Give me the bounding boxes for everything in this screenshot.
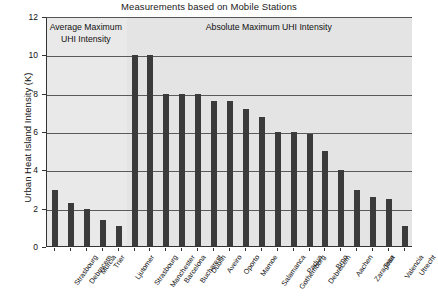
x-axis-tick-label: Mamoe	[258, 253, 279, 278]
bar[interactable]	[275, 132, 281, 247]
x-axis-tick-label: Ljutomer	[133, 253, 156, 281]
bar[interactable]	[116, 226, 122, 247]
bar[interactable]	[338, 170, 344, 247]
x-axis-tick-mark	[261, 248, 262, 251]
x-axis-tick-mark	[340, 248, 341, 251]
bar[interactable]	[100, 220, 106, 247]
gridline	[47, 56, 412, 57]
bar[interactable]	[291, 132, 297, 247]
x-axis-tick-mark	[404, 248, 405, 251]
y-axis-tick-label: 10	[14, 50, 38, 60]
y-axis-tick-label: 4	[14, 165, 38, 175]
x-axis-tick-mark	[70, 248, 71, 251]
x-axis-tick-mark	[277, 248, 278, 251]
bar[interactable]	[163, 94, 169, 247]
x-axis-tick-mark	[293, 248, 294, 251]
bar[interactable]	[402, 226, 408, 247]
y-axis-tick-label: 12	[14, 12, 38, 22]
plot-inner	[47, 18, 412, 247]
bar[interactable]	[195, 94, 201, 247]
plot-area	[46, 17, 412, 247]
gridline	[47, 95, 412, 96]
x-axis-tick-mark	[372, 248, 373, 251]
x-axis-tick-mark	[102, 248, 103, 251]
bar[interactable]	[243, 109, 249, 247]
x-axis-tick-mark	[356, 248, 357, 251]
x-axis-labels: StrasbourgDebrecemMurciaTrierLjutomerStr…	[0, 248, 418, 308]
bar[interactable]	[227, 101, 233, 247]
region-label-absolute-maximum: Absolute Maximum UHI Intensity	[130, 22, 408, 34]
x-axis-tick-mark	[213, 248, 214, 251]
chart-title: Measurements based on Mobile Stations	[0, 1, 418, 12]
x-axis-tick-label: Aveiro	[225, 253, 244, 275]
x-axis-tick-mark	[86, 248, 87, 251]
x-axis-tick-mark	[388, 248, 389, 251]
bar[interactable]	[179, 94, 185, 247]
x-axis-line	[46, 246, 412, 247]
bar[interactable]	[211, 101, 217, 247]
x-axis-tick-mark	[229, 248, 230, 251]
x-axis-tick-mark	[149, 248, 150, 251]
x-axis-tick-mark	[118, 248, 119, 251]
bar[interactable]	[307, 134, 313, 247]
x-axis-tick-label: Dublin	[209, 253, 228, 275]
bar[interactable]	[147, 55, 153, 247]
bar[interactable]	[259, 117, 265, 247]
x-axis-tick-mark	[165, 248, 166, 251]
bar[interactable]	[84, 209, 90, 247]
x-axis-tick-mark	[54, 248, 55, 251]
bar[interactable]	[132, 55, 138, 247]
x-axis-tick-label: Aachen	[354, 253, 375, 278]
x-axis-tick-mark	[309, 248, 310, 251]
y-axis-tick-label: 2	[14, 204, 38, 214]
bar[interactable]	[68, 203, 74, 247]
region-label-average-maximum: Average Maximum UHI Intensity	[48, 22, 124, 45]
bar[interactable]	[322, 151, 328, 247]
x-axis-tick-mark	[324, 248, 325, 251]
x-axis-tick-mark	[134, 248, 135, 251]
bar[interactable]	[52, 190, 58, 248]
x-axis-tick-mark	[245, 248, 246, 251]
bar[interactable]	[370, 197, 376, 247]
bar[interactable]	[354, 190, 360, 248]
x-axis-tick-mark	[181, 248, 182, 251]
bar[interactable]	[386, 199, 392, 247]
x-axis-tick-mark	[197, 248, 198, 251]
y-axis-tick-label: 8	[14, 89, 38, 99]
y-axis-tick-label: 6	[14, 127, 38, 137]
